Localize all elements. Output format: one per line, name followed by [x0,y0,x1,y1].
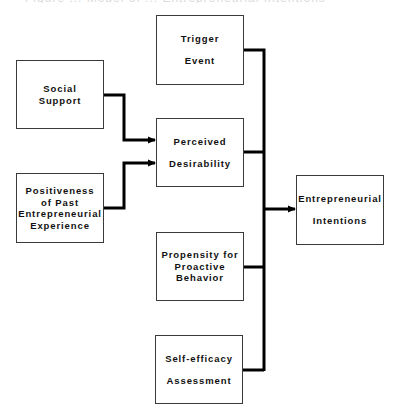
node-label-line: Support [39,95,82,107]
edge-positiveness-to-desirability [103,163,155,208]
node-label-line: Perceived [174,131,227,153]
node-label-line: Assessment [167,370,232,392]
node-label-line: Entrepreneurial [18,208,102,220]
node-label-line: Trigger [181,28,220,50]
node-label-line: Intentions [313,210,367,232]
node-entrepreneurial-intentions: Entrepreneurial Intentions [296,175,384,245]
node-label-line: Self-efficacy [165,348,233,370]
node-label-line: Experience [30,220,90,232]
node-propensity-proactive-behavior: Propensity for Proactive Behavior [156,232,244,301]
edge-trigger-event-to-bus [243,50,264,371]
node-label-line: Entrepreneurial [298,188,382,210]
node-label-line: Event [185,50,215,72]
node-label-line: Social [43,83,76,95]
node-social-support: Social Support [16,60,104,129]
node-label-line: Propensity for [162,249,239,261]
edge-social-support-to-desirability [103,95,155,140]
node-label-line: of Past [41,197,79,209]
node-positiveness-past-experience: Positiveness of Past Entrepreneurial Exp… [16,173,104,243]
node-label-line: Proactive [175,261,226,273]
node-self-efficacy-assessment: Self-efficacy Assessment [155,335,243,404]
node-label-line: Desirability [169,153,231,175]
node-perceived-desirability: Perceived Desirability [156,118,244,187]
node-trigger-event: Trigger Event [156,15,244,85]
node-label-line: Positiveness [26,185,95,197]
node-label-line: Behavior [176,272,224,284]
